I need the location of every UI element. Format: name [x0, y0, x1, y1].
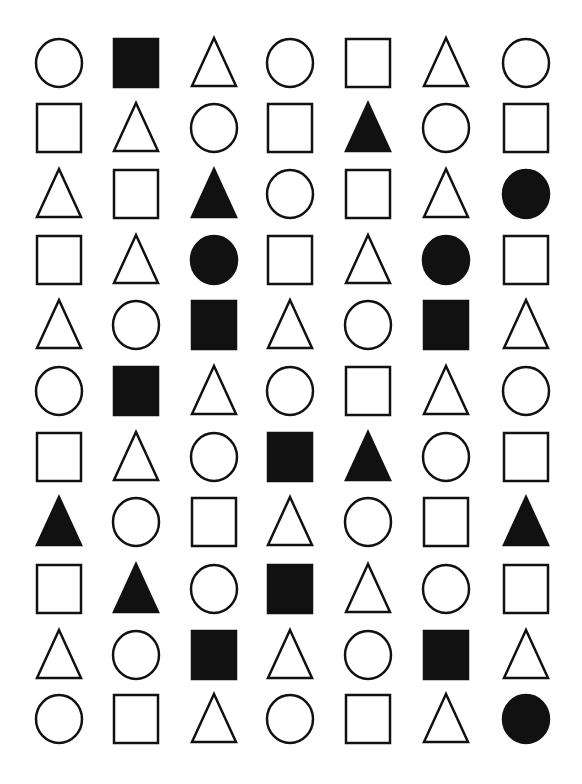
filled-triangle-icon — [106, 559, 166, 619]
outline-circle-icon — [29, 689, 89, 749]
shape-grid-worksheet — [0, 0, 582, 784]
filled-circle-icon — [184, 230, 244, 290]
outline-triangle-icon — [338, 230, 398, 290]
outline-square-icon — [29, 98, 89, 158]
outline-triangle-icon — [260, 492, 320, 552]
outline-square-icon — [496, 427, 556, 487]
outline-square-icon — [496, 559, 556, 619]
outline-square-icon — [416, 492, 476, 552]
outline-triangle-icon — [260, 625, 320, 685]
outline-triangle-icon — [184, 33, 244, 93]
outline-circle-icon — [106, 625, 166, 685]
outline-triangle-icon — [338, 559, 398, 619]
outline-circle-icon — [338, 492, 398, 552]
outline-square-icon — [496, 230, 556, 290]
outline-circle-icon — [338, 625, 398, 685]
filled-triangle-icon — [338, 98, 398, 158]
filled-square-icon — [184, 295, 244, 355]
outline-triangle-icon — [184, 361, 244, 421]
outline-square-icon — [338, 33, 398, 93]
filled-triangle-icon — [496, 492, 556, 552]
filled-square-icon — [184, 625, 244, 685]
outline-circle-icon — [496, 361, 556, 421]
outline-square-icon — [260, 230, 320, 290]
outline-square-icon — [338, 361, 398, 421]
outline-triangle-icon — [106, 427, 166, 487]
outline-square-icon — [106, 164, 166, 224]
outline-triangle-icon — [184, 689, 244, 749]
outline-square-icon — [29, 427, 89, 487]
outline-square-icon — [496, 98, 556, 158]
outline-triangle-icon — [29, 164, 89, 224]
outline-triangle-icon — [496, 625, 556, 685]
filled-square-icon — [260, 427, 320, 487]
filled-square-icon — [106, 33, 166, 93]
outline-circle-icon — [184, 98, 244, 158]
outline-square-icon — [29, 559, 89, 619]
outline-circle-icon — [416, 98, 476, 158]
outline-triangle-icon — [496, 295, 556, 355]
outline-square-icon — [29, 230, 89, 290]
filled-triangle-icon — [29, 492, 89, 552]
filled-square-icon — [416, 625, 476, 685]
outline-circle-icon — [106, 492, 166, 552]
outline-triangle-icon — [106, 230, 166, 290]
outline-circle-icon — [416, 559, 476, 619]
filled-circle-icon — [416, 230, 476, 290]
outline-square-icon — [106, 689, 166, 749]
outline-square-icon — [184, 492, 244, 552]
outline-circle-icon — [184, 427, 244, 487]
outline-triangle-icon — [29, 625, 89, 685]
outline-triangle-icon — [260, 295, 320, 355]
outline-circle-icon — [416, 427, 476, 487]
outline-triangle-icon — [416, 33, 476, 93]
outline-circle-icon — [260, 689, 320, 749]
outline-square-icon — [260, 98, 320, 158]
filled-circle-icon — [496, 164, 556, 224]
filled-square-icon — [260, 559, 320, 619]
filled-circle-icon — [496, 689, 556, 749]
filled-square-icon — [106, 361, 166, 421]
outline-circle-icon — [260, 164, 320, 224]
outline-circle-icon — [260, 361, 320, 421]
outline-triangle-icon — [416, 689, 476, 749]
outline-triangle-icon — [416, 164, 476, 224]
outline-circle-icon — [106, 295, 166, 355]
outline-circle-icon — [29, 361, 89, 421]
outline-triangle-icon — [106, 98, 166, 158]
outline-square-icon — [338, 164, 398, 224]
filled-triangle-icon — [338, 427, 398, 487]
outline-circle-icon — [338, 295, 398, 355]
filled-triangle-icon — [184, 164, 244, 224]
outline-square-icon — [338, 689, 398, 749]
outline-circle-icon — [496, 33, 556, 93]
filled-square-icon — [416, 295, 476, 355]
outline-circle-icon — [29, 33, 89, 93]
outline-circle-icon — [184, 559, 244, 619]
outline-triangle-icon — [29, 295, 89, 355]
outline-circle-icon — [260, 33, 320, 93]
outline-triangle-icon — [416, 361, 476, 421]
